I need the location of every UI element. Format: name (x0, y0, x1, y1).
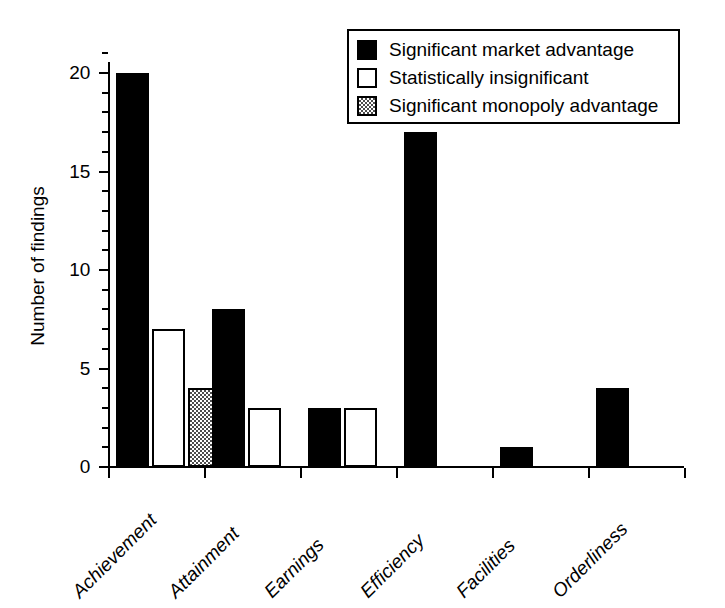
y-tick-minor (102, 348, 108, 350)
x-tick (204, 468, 206, 478)
bar (212, 309, 245, 467)
legend-item-label: Significant market advantage (389, 40, 634, 60)
x-tick (588, 468, 590, 478)
legend-item-label: Significant monopoly advantage (389, 96, 658, 116)
y-tick-minor (102, 289, 108, 291)
bar (308, 408, 341, 467)
y-tick-major (99, 171, 108, 173)
x-tick (396, 468, 398, 478)
y-tick-minor (102, 446, 108, 448)
y-tick-minor (102, 151, 108, 153)
y-tick-minor (102, 308, 108, 310)
y-tick-label: 10 (60, 260, 90, 279)
legend: Significant market advantage Statistical… (347, 29, 680, 124)
black-square-icon (357, 40, 377, 60)
bar (248, 408, 281, 467)
x-category-label: Attainment (164, 523, 244, 603)
y-tick-minor (102, 230, 108, 232)
bar (596, 388, 629, 467)
x-category-label: Achievement (68, 509, 161, 602)
bar (116, 73, 149, 467)
bar (404, 132, 437, 467)
bar-chart-figure: Number of findings 05101520 AchievementA… (0, 0, 725, 608)
x-tick (300, 468, 302, 478)
y-tick-minor (102, 210, 108, 212)
y-tick-label: 0 (60, 457, 90, 476)
x-tick (108, 468, 110, 478)
bar (500, 447, 533, 467)
white-square-icon (357, 68, 377, 88)
y-tick-minor (102, 190, 108, 192)
y-tick-minor (102, 249, 108, 251)
y-tick-label: 15 (60, 162, 90, 181)
y-tick-major (99, 368, 108, 370)
y-tick-minor (102, 92, 108, 94)
y-tick-major (99, 72, 108, 74)
y-tick-minor (102, 111, 108, 113)
y-tick-minor (102, 131, 108, 133)
x-tick (684, 468, 686, 478)
legend-item-label: Statistically insignificant (389, 68, 589, 88)
gray-square-icon (357, 96, 377, 116)
bar (152, 329, 185, 467)
y-tick-label: 5 (60, 359, 90, 378)
x-tick (492, 468, 494, 478)
x-category-label: Facilities (452, 535, 520, 603)
legend-item: Significant monopoly advantage (357, 92, 670, 120)
y-tick-minor (102, 407, 108, 409)
bar (344, 408, 377, 467)
y-tick-minor (102, 52, 108, 54)
y-axis-title: Number of findings (27, 156, 49, 376)
y-tick-major (99, 269, 108, 271)
y-tick-minor (102, 427, 108, 429)
y-axis-line (108, 62, 110, 469)
x-category-label: Earnings (260, 534, 329, 603)
legend-item: Significant market advantage (357, 36, 670, 64)
legend-item: Statistically insignificant (357, 64, 670, 92)
y-tick-minor (102, 328, 108, 330)
y-tick-label: 20 (60, 63, 90, 82)
x-category-label: Efficiency (356, 530, 429, 603)
x-category-label: Orderliness (548, 518, 632, 602)
y-tick-major (99, 466, 108, 468)
y-tick-minor (102, 387, 108, 389)
